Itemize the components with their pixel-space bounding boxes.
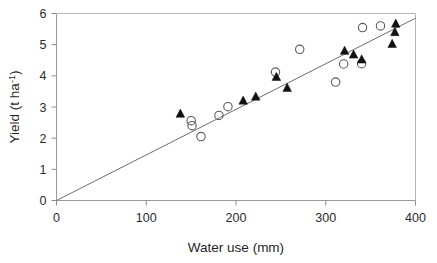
data-point-filled-triangle — [391, 27, 400, 35]
y-axis-title-text: Yield (t ha-1) — [7, 71, 22, 144]
chart-figure: 01002003004000123456Water use (mm)Yield … — [0, 0, 437, 263]
series-filled-triangles — [176, 19, 400, 117]
plot-frame — [57, 14, 416, 201]
data-point-filled-triangle — [340, 46, 349, 54]
data-point-open-circle — [376, 22, 384, 30]
scatter-plot: 01002003004000123456Water use (mm)Yield … — [0, 0, 437, 263]
data-point-open-circle — [358, 23, 366, 31]
y-tick-label: 1 — [40, 163, 47, 177]
data-point-filled-triangle — [239, 96, 248, 104]
x-tick-label: 400 — [405, 211, 426, 225]
x-tick-label: 100 — [136, 211, 157, 225]
y-tick-label: 3 — [40, 101, 47, 115]
y-axis-title-main: Yield (t ha — [7, 83, 22, 144]
data-point-open-circle — [340, 60, 348, 68]
data-point-open-circle — [296, 45, 304, 53]
data-point-open-circle — [331, 78, 339, 86]
y-tick-label: 0 — [40, 194, 47, 208]
data-point-filled-triangle — [176, 109, 185, 117]
trend-line — [57, 18, 416, 200]
y-axis-title-close: ) — [7, 71, 22, 76]
x-tick-label: 300 — [315, 211, 336, 225]
data-point-open-circle — [224, 102, 232, 110]
x-tick-label: 0 — [53, 211, 60, 225]
x-axis-title: Water use (mm) — [188, 240, 284, 255]
y-tick-label: 5 — [40, 38, 47, 52]
y-tick-label: 6 — [40, 7, 47, 21]
x-tick-label: 200 — [226, 211, 247, 225]
series-open-circles — [187, 22, 385, 141]
data-point-open-circle — [188, 122, 196, 130]
data-point-filled-triangle — [391, 19, 400, 27]
y-axis-title-superscript: -1 — [7, 75, 17, 83]
y-axis-title: Yield (t ha-1) — [7, 71, 22, 144]
y-tick-label: 4 — [40, 69, 47, 83]
y-tick-label: 2 — [40, 132, 47, 146]
data-point-filled-triangle — [251, 92, 260, 100]
data-point-open-circle — [197, 132, 205, 140]
data-point-filled-triangle — [357, 55, 366, 63]
data-point-filled-triangle — [388, 39, 397, 47]
